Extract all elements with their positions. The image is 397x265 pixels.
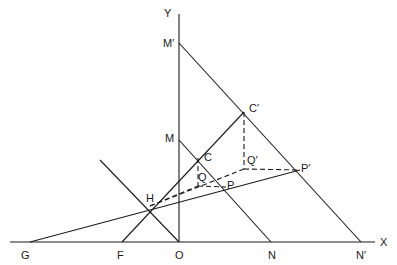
line-g-pprime [30, 170, 300, 242]
y-axis-label: Y [164, 8, 171, 19]
point-label-h: H [146, 193, 154, 204]
point-label-nprime: N′ [356, 250, 366, 261]
point-label-cprime: C′ [249, 103, 259, 114]
point-label-n: N [268, 250, 276, 261]
geometry-diagram: Y X M′ M C′ C Q′ Q P′ P H G F O N N′ [0, 0, 397, 265]
point-label-q: Q [198, 172, 207, 183]
dashed-qprime-pprime [244, 169, 300, 170]
point-label-pprime: P′ [301, 163, 310, 174]
diagram-canvas [0, 0, 397, 265]
point-label-o: O [175, 250, 184, 261]
point-label-p: P [227, 180, 234, 191]
x-axis-label: X [380, 237, 387, 248]
point-label-mprime: M′ [163, 38, 174, 49]
line-through-h-to-o [100, 160, 179, 242]
line-mprime-nprime [179, 43, 361, 242]
point-label-qprime: Q′ [247, 155, 258, 166]
point-label-g: G [21, 250, 30, 261]
point-label-f: F [117, 250, 124, 261]
point-label-c: C [204, 152, 212, 163]
point-label-m: M [165, 133, 174, 144]
line-f-cprime [122, 112, 244, 242]
dashed-h-q [150, 186, 198, 206]
